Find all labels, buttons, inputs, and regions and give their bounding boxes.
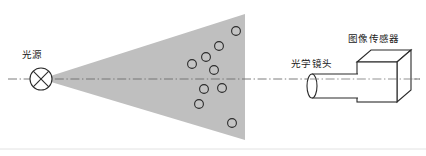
lens-front-aperture (307, 74, 317, 98)
scattering-particle (215, 42, 224, 51)
optical-lens-cylinder (307, 74, 358, 98)
light-source-label: 光源 (22, 49, 43, 60)
scattering-particle (210, 66, 219, 75)
lens-body (312, 74, 358, 98)
scattering-particle (200, 85, 209, 94)
image-sensor-cube (357, 50, 411, 102)
diagram-canvas: 光源 图像传感器 光学镜头 (0, 0, 426, 156)
light-source-symbol (30, 68, 52, 90)
sensor-cube-front-face (357, 62, 397, 102)
optical-lens-label: 光学镜头 (291, 58, 332, 69)
light-beam-cone (41, 14, 245, 140)
scattering-particle (218, 84, 227, 93)
optical-particle-diagram: 光源 图像传感器 光学镜头 (0, 0, 426, 156)
scattering-particle (228, 119, 237, 128)
scattering-particle (202, 53, 211, 62)
scattering-particle (232, 27, 241, 36)
scattering-particle (195, 100, 204, 109)
image-sensor-label: 图像传感器 (348, 33, 400, 44)
scattering-particle (188, 60, 197, 69)
